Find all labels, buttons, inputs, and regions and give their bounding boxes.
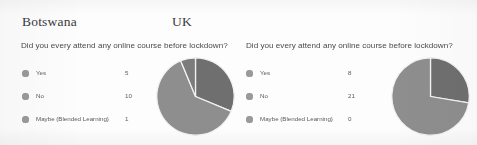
legend-item-value: 8 — [348, 69, 351, 76]
pie-slice — [431, 58, 470, 103]
chart-legend-botswana: Yes 5 No 10 Maybe (Blended Learning) 1 — [22, 68, 157, 137]
legend-item-value: 10 — [125, 92, 132, 99]
legend-marker-icon — [246, 116, 253, 123]
chart-question-uk: Did you every attend any online course b… — [246, 41, 453, 50]
legend-marker-icon — [22, 116, 29, 123]
chart-question-botswana: Did you every attend any online course b… — [21, 41, 228, 50]
chart-pair-container: Botswana Did you every attend any online… — [0, 0, 477, 145]
pie-chart-uk — [391, 57, 470, 136]
page-title-uk: UK — [172, 14, 192, 30]
legend-item-label: Yes — [36, 69, 46, 76]
chart-panel-botswana: Botswana Did you every attend any online… — [0, 0, 240, 145]
legend-item: Maybe (Blended Learning) 0 — [246, 114, 381, 129]
legend-item-value: 5 — [125, 69, 128, 76]
pie-chart-svg — [156, 57, 235, 136]
pie-chart-botswana — [156, 57, 235, 136]
legend-marker-icon — [246, 93, 253, 100]
legend-item-value: 21 — [348, 92, 355, 99]
legend-item: Maybe (Blended Learning) 1 — [22, 114, 157, 129]
legend-marker-icon — [22, 93, 29, 100]
legend-item: No 21 — [246, 91, 381, 106]
legend-item: No 10 — [22, 91, 157, 106]
legend-item-label: Yes — [260, 69, 270, 76]
legend-item-label: No — [260, 92, 268, 99]
page-title-botswana: Botswana — [22, 14, 77, 30]
legend-item-label: No — [36, 92, 44, 99]
legend-item-value: 0 — [348, 115, 351, 122]
chart-panel-uk: UK Did you every attend any online cours… — [238, 0, 477, 145]
legend-item: Yes 8 — [246, 68, 381, 83]
legend-marker-icon — [246, 70, 253, 77]
legend-item-label: Maybe (Blended Learning) — [260, 115, 333, 122]
legend-item-label: Maybe (Blended Learning) — [36, 115, 109, 122]
chart-legend-uk: Yes 8 No 21 Maybe (Blended Learning) 0 — [246, 68, 381, 137]
legend-item: Yes 5 — [22, 68, 157, 83]
pie-chart-svg — [391, 57, 470, 136]
legend-item-value: 1 — [125, 115, 128, 122]
legend-marker-icon — [22, 70, 29, 77]
